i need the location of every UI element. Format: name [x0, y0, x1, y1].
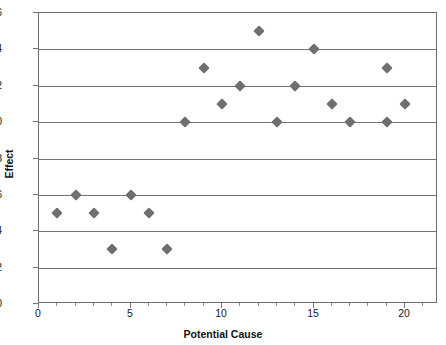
- x-minor-tick-11: [239, 303, 240, 306]
- data-point: [143, 207, 154, 218]
- gridline-y-2: [39, 268, 436, 269]
- data-point: [326, 98, 337, 109]
- data-point: [198, 62, 209, 73]
- y-tick-label-12: 12: [0, 80, 2, 91]
- x-minor-tick-6: [148, 303, 149, 306]
- x-minor-tick-17: [349, 303, 350, 306]
- gridline-y-6: [39, 195, 436, 196]
- data-point: [271, 116, 282, 127]
- gridline-y-4: [39, 231, 436, 232]
- data-point: [52, 207, 63, 218]
- x-minor-tick-18: [367, 303, 368, 306]
- x-axis-title: Potential Cause: [0, 328, 446, 340]
- x-minor-tick-8: [184, 303, 185, 306]
- data-point: [235, 80, 246, 91]
- y-tick-label-6: 6: [0, 189, 2, 200]
- data-point: [381, 116, 392, 127]
- x-minor-tick-21: [422, 303, 423, 306]
- plot-area: [38, 12, 437, 303]
- y-tick-label-14: 14: [0, 43, 2, 54]
- x-minor-tick-3: [93, 303, 94, 306]
- x-minor-tick-1: [56, 303, 57, 306]
- x-minor-tick-19: [386, 303, 387, 306]
- x-minor-tick-14: [294, 303, 295, 306]
- x-tick-label-20: 20: [384, 308, 424, 319]
- y-tick-label-16: 16: [0, 7, 2, 18]
- gridline-y-14: [39, 49, 436, 50]
- y-axis-title: Effect: [3, 134, 15, 194]
- x-tick-label-0: 0: [18, 308, 58, 319]
- x-tick-label-5: 5: [110, 308, 150, 319]
- x-minor-tick-12: [258, 303, 259, 306]
- data-point: [125, 189, 136, 200]
- data-point: [399, 98, 410, 109]
- x-minor-tick-7: [166, 303, 167, 306]
- x-minor-tick-13: [276, 303, 277, 306]
- data-point: [253, 26, 264, 37]
- gridline-y-10: [39, 122, 436, 123]
- data-point: [180, 116, 191, 127]
- y-tick-label-8: 8: [0, 153, 2, 164]
- data-point: [107, 244, 118, 255]
- y-tick-label-4: 4: [0, 225, 2, 236]
- gridline-y-8: [39, 159, 436, 160]
- data-point: [344, 116, 355, 127]
- x-minor-tick-16: [331, 303, 332, 306]
- data-point: [308, 44, 319, 55]
- data-point: [216, 98, 227, 109]
- x-minor-tick-2: [75, 303, 76, 306]
- x-minor-tick-4: [111, 303, 112, 306]
- data-point: [88, 207, 99, 218]
- data-point: [290, 80, 301, 91]
- x-tick-label-15: 15: [293, 308, 333, 319]
- x-minor-tick-9: [203, 303, 204, 306]
- x-tick-label-10: 10: [201, 308, 241, 319]
- y-tick-label-0: 0: [0, 298, 2, 309]
- data-point: [161, 244, 172, 255]
- scatter-chart: Effect 0246810121416 05101520 Potential …: [0, 0, 446, 345]
- y-tick-label-10: 10: [0, 116, 2, 127]
- y-tick-label-2: 2: [0, 262, 2, 273]
- data-point: [70, 189, 81, 200]
- data-point: [381, 62, 392, 73]
